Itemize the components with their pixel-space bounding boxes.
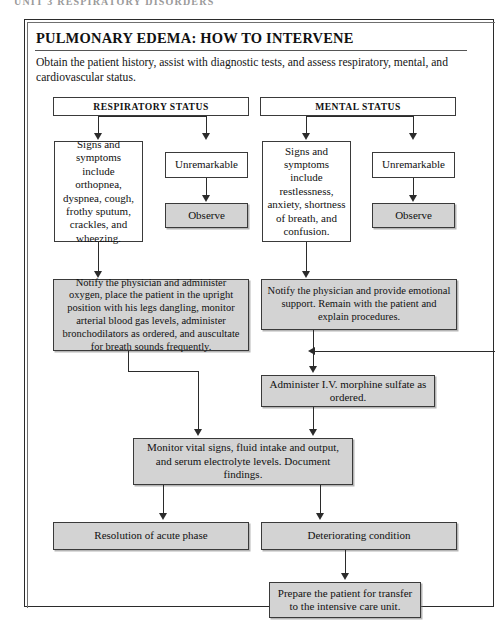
respiratory-right-stem	[206, 116, 207, 134]
morphine-to-monitor-stem	[313, 407, 314, 431]
intro-text: Obtain the patient history, assist with …	[36, 56, 468, 86]
resolution-box: Resolution of acute phase	[53, 522, 249, 550]
respiratory-observe-stem	[206, 178, 207, 196]
respiratory-signs-box: Signs and symptoms include orthopnea, dy…	[54, 141, 143, 242]
mental-left-stem	[306, 116, 307, 134]
mental-unremarkable-box: Unremarkable	[372, 152, 455, 178]
morphine-stem	[313, 330, 314, 368]
page-title: PULMONARY EDEMA: HOW TO INTERVENE	[36, 30, 354, 47]
monitor-box: Monitor vital signs, fluid intake and ou…	[133, 438, 353, 485]
mental-branch-bar	[306, 116, 413, 117]
monitor-right-arrow	[309, 429, 317, 436]
respiratory-left-stem	[98, 116, 99, 134]
mental-observe-arrow	[409, 195, 417, 202]
icu-arrow	[341, 573, 349, 580]
monitor-left-stem	[198, 371, 199, 431]
mental-intervention-stem	[306, 242, 307, 273]
icu-stem	[345, 550, 346, 575]
deteriorating-arrow	[316, 513, 324, 520]
respiratory-to-monitor-bar	[128, 371, 198, 372]
respiratory-status-header: RESPIRATORY STATUS	[53, 97, 249, 116]
mental-observe-box: Observe	[372, 203, 455, 228]
respiratory-right-arrow	[202, 133, 210, 140]
deteriorating-box: Deteriorating condition	[261, 522, 457, 550]
deteriorating-stem	[320, 485, 321, 515]
mental-right-stem	[413, 116, 414, 134]
title-divider	[35, 50, 467, 51]
mental-intervention-arrow	[302, 271, 310, 278]
external-inbound-line	[313, 351, 495, 352]
respiratory-intervention-stem	[98, 242, 99, 273]
mental-observe-stem	[413, 178, 414, 196]
respiratory-branch-bar	[98, 116, 206, 117]
respiratory-intervention-box: Notify the physician and administer oxyg…	[53, 279, 249, 351]
morphine-box: Administer I.V. morphine sulfate as orde…	[261, 375, 435, 407]
resolution-stem	[163, 485, 164, 515]
respiratory-observe-box: Observe	[165, 203, 248, 228]
mental-status-header: MENTAL STATUS	[260, 97, 456, 116]
icu-transfer-box: Prepare the patient for transfer to the …	[269, 582, 421, 618]
monitor-left-arrow	[194, 429, 202, 436]
morphine-arrow	[309, 366, 317, 373]
respiratory-observe-arrow	[202, 195, 210, 202]
mental-right-arrow	[409, 133, 417, 140]
mental-intervention-box: Notify the physician and provide emotion…	[261, 279, 457, 330]
page-running-header: UNIT 3 RESPIRATORY DISORDERS	[14, 0, 344, 6]
mental-left-arrow	[302, 133, 310, 140]
resolution-arrow	[159, 513, 167, 520]
respiratory-unremarkable-box: Unremarkable	[165, 152, 248, 178]
respiratory-to-monitor-stem	[128, 351, 129, 371]
flowchart-panel: PULMONARY EDEMA: HOW TO INTERVENE Obtain…	[24, 19, 494, 607]
mental-signs-box: Signs and symptoms include restlessness,…	[262, 141, 351, 242]
